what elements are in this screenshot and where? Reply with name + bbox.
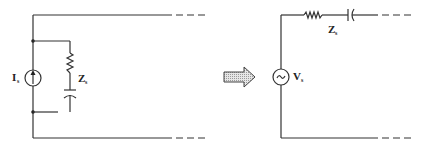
sine-wave-icon: [277, 76, 285, 79]
left-circuit: I s Z s: [12, 15, 206, 138]
voltage-source-label: V: [293, 70, 301, 82]
resistor-icon: [67, 53, 73, 73]
voltage-source-subscript: s: [301, 77, 304, 83]
current-source-subscript: s: [17, 78, 20, 84]
impedance-subscript-right: s: [335, 30, 338, 36]
circuit-diagram: I s Z s V s Z s: [0, 0, 422, 146]
transform-arrow: [224, 67, 255, 87]
right-circuit: V s Z s: [273, 9, 412, 138]
current-source-label: I: [12, 71, 16, 83]
resistor-icon: [304, 12, 322, 18]
impedance-subscript-left: s: [85, 79, 88, 85]
right-arrow-icon: [224, 67, 255, 87]
